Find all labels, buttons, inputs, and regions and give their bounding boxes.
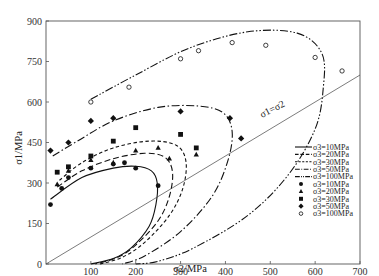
chart-container: 1002003004005006007000150300450600750900… xyxy=(0,0,379,276)
x-tick-label: 600 xyxy=(308,266,323,276)
marker-circle-icon xyxy=(66,175,71,180)
data-points xyxy=(47,40,344,207)
marker-open-circle-icon xyxy=(230,40,234,44)
marker-diamond-icon xyxy=(88,118,94,124)
x-tick-label: 100 xyxy=(83,266,98,276)
x-tick-label: 500 xyxy=(263,266,278,276)
x-axis-label: σ2/MPa xyxy=(173,263,207,274)
marker-square-icon xyxy=(178,132,183,137)
marker-circle-icon xyxy=(299,182,303,186)
marker-open-circle-icon xyxy=(340,69,344,73)
marker-open-circle-icon xyxy=(196,49,200,53)
marker-circle-icon xyxy=(59,186,64,191)
x-tick-label: 400 xyxy=(218,266,233,276)
marker-square-icon xyxy=(194,146,199,151)
y-tick-label: 450 xyxy=(27,137,42,148)
x-tick-label: 200 xyxy=(128,266,143,276)
marker-diamond-icon xyxy=(177,108,183,114)
marker-circle-icon xyxy=(48,202,53,207)
marker-triangle-icon xyxy=(156,145,161,150)
fitted-curve xyxy=(53,105,233,264)
marker-open-circle-icon xyxy=(299,212,303,216)
legend-marker-label: σ3=100MPa xyxy=(313,209,353,218)
x-tick-label: 700 xyxy=(353,266,368,276)
marker-triangle-icon xyxy=(167,156,172,161)
marker-triangle-icon xyxy=(133,148,138,153)
marker-circle-icon xyxy=(88,166,93,171)
marker-square-icon xyxy=(55,170,60,175)
marker-square-icon xyxy=(88,154,93,159)
marker-diamond-icon xyxy=(47,147,53,153)
fitted-curve xyxy=(91,30,325,264)
marker-open-circle-icon xyxy=(313,55,317,59)
fitted-curves xyxy=(50,30,324,264)
marker-square-icon xyxy=(299,197,303,201)
y-tick-label: 750 xyxy=(27,56,42,67)
marker-diamond-icon xyxy=(238,135,244,141)
marker-circle-icon xyxy=(133,166,138,171)
marker-triangle-icon xyxy=(55,181,60,186)
marker-circle-icon xyxy=(122,160,127,165)
y-tick-label: 600 xyxy=(27,97,42,108)
marker-triangle-icon xyxy=(299,189,303,193)
reference-line-label: σ1=σ2 xyxy=(258,98,287,120)
marker-open-circle-icon xyxy=(89,100,93,104)
y-tick-label: 300 xyxy=(27,178,42,189)
legend: σ3=10MPaσ3=20MPaσ3=30MPaσ3=50MPaσ3=100MP… xyxy=(295,143,353,219)
y-tick-label: 900 xyxy=(27,16,42,27)
marker-diamond-icon xyxy=(110,115,116,121)
marker-diamond-icon xyxy=(227,115,233,121)
marker-square-icon xyxy=(111,139,116,144)
marker-open-circle-icon xyxy=(178,57,182,61)
marker-square-icon xyxy=(66,164,71,169)
chart-svg: 1002003004005006007000150300450600750900… xyxy=(0,0,379,276)
y-tick-label: 150 xyxy=(27,218,42,229)
y-axis-label: σ1/MPa xyxy=(13,131,24,165)
marker-open-circle-icon xyxy=(127,85,131,89)
marker-square-icon xyxy=(133,125,138,130)
marker-circle-icon xyxy=(156,183,161,188)
marker-triangle-icon xyxy=(111,160,116,165)
marker-open-circle-icon xyxy=(264,43,268,47)
marker-diamond-icon xyxy=(298,204,303,209)
marker-triangle-icon xyxy=(194,152,199,157)
y-tick-label: 0 xyxy=(37,259,42,270)
